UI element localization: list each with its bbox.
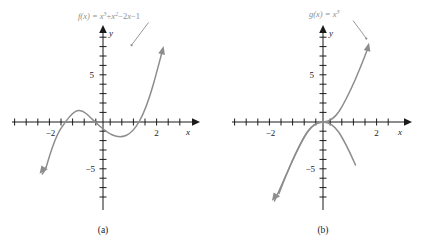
panel-a-xticklabel-2: 2 [154, 128, 159, 138]
panel-a-curve-arrow-top [158, 46, 165, 55]
figure-container: f(x) = x3+x2−2x−1 −2 2 5 −5 x y (a) [0, 0, 422, 246]
panel-a-label-op2: −2 [118, 11, 127, 21]
panel-a-yticklabel-neg5: −5 [85, 164, 95, 174]
panel-b-y-axis-arrow [319, 25, 327, 33]
panel-a-label-lhs: f(x) = [78, 11, 100, 21]
panel-b-yticklabel-5: 5 [310, 70, 315, 80]
panel-b-curve-lower [279, 122, 323, 194]
panel-b-x-axis-arrow [404, 118, 412, 126]
panel-a-x-axis-arrow [192, 118, 200, 126]
panel-a-label-op3: −1 [131, 11, 140, 21]
panel-a-annotation-dot [131, 44, 133, 46]
panel-b-label-exp1: 3 [335, 9, 339, 15]
panel-b-y-axis-label: y [328, 28, 333, 38]
panel-b-xticklabel-neg2: −2 [266, 128, 276, 138]
panel-b-curve-arrow-top [364, 43, 371, 52]
panel-a-yticklabel-5: 5 [90, 70, 95, 80]
panel-a-annotation-leader [132, 23, 149, 45]
panel-a-function-label: f(x) = x3+x2−2x−1 [78, 11, 140, 21]
panel-a: f(x) = x3+x2−2x−1 −2 2 5 −5 x y (a) [12, 11, 200, 236]
panel-b-curve [275, 122, 356, 201]
panel-b-label-lhs: g(x) = [309, 9, 333, 19]
panel-b-xticklabel-2: 2 [374, 128, 379, 138]
panel-a-caption: (a) [98, 225, 109, 236]
panel-a-y-axis-label: y [108, 28, 113, 38]
panel-b-function-label: g(x) = x3 [309, 9, 339, 19]
panel-b-caption: (b) [317, 225, 328, 236]
panel-b-x-axis-label: x [397, 127, 402, 137]
panel-a-xticklabel-neg2: −2 [46, 128, 56, 138]
panel-a-y-axis-arrow [99, 25, 107, 33]
panel-b-annotation-leader [353, 21, 366, 39]
panel-b-yticklabel-neg5: −5 [305, 164, 315, 174]
panel-b: g(x) = x3 −2 2 5 −5 x y (b) [232, 9, 412, 236]
panel-b-curve-upper [323, 51, 367, 123]
panel-b-annotation-dot [365, 38, 367, 40]
panel-a-x-axis-label: x [185, 127, 190, 137]
